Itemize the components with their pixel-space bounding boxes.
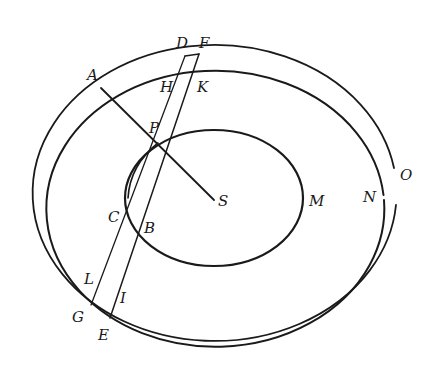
label-A: A — [85, 66, 98, 84]
label-H: H — [159, 78, 174, 96]
label-K: K — [196, 78, 209, 96]
outer-orbit-outer-curve — [33, 45, 396, 341]
orbit-diagram: A D F H K P S M N O C B L I G E — [0, 0, 440, 370]
label-F: F — [198, 34, 210, 52]
label-N: N — [362, 188, 377, 206]
label-E: E — [97, 326, 109, 344]
label-B: B — [143, 219, 155, 237]
label-P: P — [148, 119, 160, 137]
label-S: S — [218, 192, 228, 210]
label-L: L — [83, 270, 94, 288]
segment-DF — [185, 54, 199, 56]
label-C: C — [108, 208, 120, 226]
label-I: I — [119, 289, 127, 307]
label-G: G — [72, 308, 84, 326]
label-O: O — [400, 166, 412, 184]
label-D: D — [175, 34, 188, 52]
label-M: M — [308, 192, 325, 210]
inner-orbit — [125, 130, 303, 266]
